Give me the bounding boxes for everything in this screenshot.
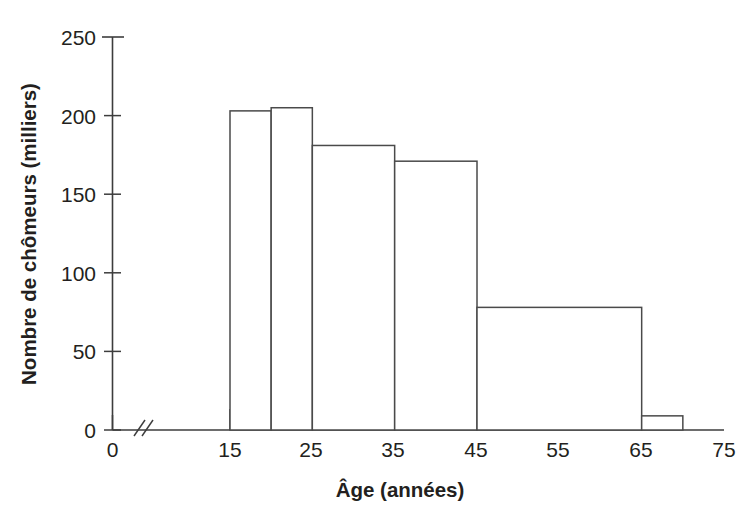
x-axis-break-mark xyxy=(134,420,153,436)
x-tick-label-65: 65 xyxy=(629,438,652,461)
x-tick-label-75: 75 xyxy=(712,438,735,461)
y-tick-label-0: 0 xyxy=(84,419,96,442)
y-axis-tick-labels: 0 50 100 150 200 250 xyxy=(61,26,96,442)
x-tick-label-15: 15 xyxy=(218,438,241,461)
y-tick-label-150: 150 xyxy=(61,183,96,206)
y-tick-label-200: 200 xyxy=(61,105,96,128)
y-tick-label-100: 100 xyxy=(61,262,96,285)
histogram-bar xyxy=(271,108,312,430)
histogram-bar xyxy=(642,416,683,430)
x-tick-label-35: 35 xyxy=(381,438,404,461)
histogram-bar xyxy=(395,161,477,430)
y-tick-label-50: 50 xyxy=(73,340,96,363)
histogram-bar xyxy=(312,145,394,430)
histogram-chart: 0 50 100 150 200 250 0 15 25 xyxy=(0,0,753,526)
histogram-bar xyxy=(230,111,271,430)
x-tick-label-0: 0 xyxy=(107,438,119,461)
histogram-bar xyxy=(477,307,642,430)
histogram-bars xyxy=(230,108,683,430)
x-tick-label-25: 25 xyxy=(299,438,322,461)
x-tick-label-45: 45 xyxy=(464,438,487,461)
chart-canvas: 0 50 100 150 200 250 0 15 25 xyxy=(0,0,753,526)
x-axis-tick-labels: 0 15 25 35 45 55 65 75 xyxy=(107,438,736,461)
y-axis-title: Nombre de chômeurs (milliers) xyxy=(17,83,40,385)
x-axis-title: Âge (années) xyxy=(336,478,465,501)
y-tick-label-250: 250 xyxy=(61,26,96,49)
x-tick-label-55: 55 xyxy=(546,438,569,461)
